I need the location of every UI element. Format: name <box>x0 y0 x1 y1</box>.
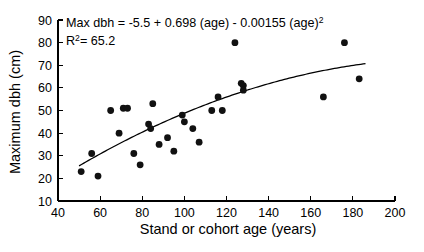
y-tick-label: 40 <box>38 127 52 141</box>
plot-canvas: 102030405060708090 Maximum dbh (cm) 4060… <box>0 0 424 252</box>
data-point <box>164 134 171 141</box>
data-point <box>124 105 131 112</box>
x-tick-label: 160 <box>300 206 321 220</box>
equation-exponent: 2 <box>319 15 324 25</box>
data-point <box>181 118 188 125</box>
data-point <box>196 139 203 146</box>
data-point <box>156 141 163 148</box>
y-axis-tick-labels: 102030405060708090 <box>38 14 52 209</box>
scatter-plot-figure: 102030405060708090 Maximum dbh (cm) 4060… <box>0 0 424 252</box>
equation-text: Max dbh = -5.5 + 0.698 (age) - 0.00155 (… <box>66 16 319 30</box>
x-tick-label: 100 <box>174 206 195 220</box>
y-tick-label: 70 <box>38 59 52 73</box>
data-points-group <box>78 39 363 179</box>
equation-line: Max dbh = -5.5 + 0.698 (age) - 0.00155 (… <box>66 15 324 31</box>
y-tick-label: 30 <box>38 149 52 163</box>
r-squared-line: R2= 65.2 <box>66 33 115 49</box>
x-tick-label: 140 <box>258 206 279 220</box>
x-axis-ticks <box>58 196 395 201</box>
y-axis-ticks <box>58 20 63 201</box>
y-tick-label: 60 <box>38 81 52 95</box>
data-point <box>232 39 239 46</box>
data-point <box>107 107 114 114</box>
x-axis-tick-labels: 406080100120140160180200 <box>51 206 405 220</box>
y-tick-label: 20 <box>38 172 52 186</box>
x-tick-label: 80 <box>135 206 149 220</box>
x-tick-label: 40 <box>51 206 65 220</box>
data-point <box>95 173 102 180</box>
data-point <box>149 100 156 107</box>
r-label: R <box>66 34 75 48</box>
data-point <box>208 107 215 114</box>
x-tick-label: 180 <box>342 206 363 220</box>
r-value: = 65.2 <box>80 34 115 48</box>
data-point <box>189 125 196 132</box>
y-axis-group: 102030405060708090 Maximum dbh (cm) <box>7 14 63 209</box>
x-axis-group: 406080100120140160180200 Stand or cohort… <box>51 196 405 237</box>
data-point <box>88 150 95 157</box>
data-point <box>320 94 327 101</box>
x-tick-label: 120 <box>216 206 237 220</box>
y-tick-label: 10 <box>38 195 52 209</box>
x-tick-label: 60 <box>93 206 107 220</box>
data-point <box>240 87 247 94</box>
regression-curve <box>79 64 365 166</box>
data-point <box>147 125 154 132</box>
equation-annotation: Max dbh = -5.5 + 0.698 (age) - 0.00155 (… <box>66 15 324 49</box>
y-axis-title: Maximum dbh (cm) <box>7 50 23 174</box>
y-tick-label: 50 <box>38 104 52 118</box>
x-tick-label: 200 <box>385 206 406 220</box>
data-point <box>170 148 177 155</box>
y-tick-label: 90 <box>38 14 52 28</box>
data-point <box>219 107 226 114</box>
data-point <box>137 161 144 168</box>
x-axis-title: Stand or cohort age (years) <box>140 221 317 237</box>
data-point <box>356 75 363 82</box>
data-point <box>130 150 137 157</box>
data-point <box>215 94 222 101</box>
data-point <box>116 130 123 137</box>
y-tick-label: 80 <box>38 36 52 50</box>
data-point <box>78 168 85 175</box>
data-point <box>341 39 348 46</box>
data-point <box>179 112 186 119</box>
